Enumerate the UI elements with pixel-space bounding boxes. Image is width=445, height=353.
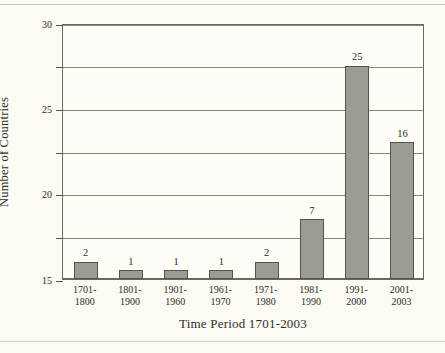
bar[interactable]	[164, 270, 188, 279]
bar[interactable]	[300, 219, 324, 279]
x-axis-tick-label-line: 1991-	[344, 284, 367, 296]
x-axis-title: Time Period 1701-2003	[179, 316, 307, 332]
bar-slot: 1	[108, 25, 153, 279]
bar-value-label: 16	[397, 129, 408, 140]
y-axis-tick: 25	[56, 67, 63, 68]
y-axis-title: Number of Countries	[0, 97, 12, 207]
y-axis-tick: 20	[56, 110, 63, 111]
x-axis-tick-label: 1801-1900	[118, 284, 141, 307]
y-axis-tick-label: 20	[42, 190, 52, 200]
y-axis-tick: 0	[56, 281, 63, 282]
x-axis-tick-label: 1981-1990	[299, 284, 322, 307]
x-axis-tick-label-line: 1701-	[73, 284, 96, 296]
y-axis-tick-label: 15	[42, 276, 52, 286]
bar-slot: 2	[244, 25, 289, 279]
bar-slot: 7	[289, 25, 334, 279]
x-axis-tick-label-line: 1900	[118, 296, 141, 308]
bar-value-label: 2	[83, 248, 88, 259]
x-axis-tick-label-line: 1961-	[209, 284, 232, 296]
x-axis-tick-label: 2001-2003	[390, 284, 413, 307]
bar-value-label: 7	[309, 206, 314, 217]
bar[interactable]	[74, 262, 98, 279]
plot-area: 051015202530 2111272516	[62, 24, 424, 280]
x-axis-tick-label-line: 1981-	[299, 284, 322, 296]
x-axis-tick-label-line: 1800	[73, 296, 96, 308]
x-axis-tick-label-line: 1971-	[254, 284, 277, 296]
bar-slot: 1	[199, 25, 244, 279]
bar-slot: 25	[335, 25, 380, 279]
x-axis-tick-label: 1701-1800	[73, 284, 96, 307]
bar-value-label: 2	[264, 248, 269, 259]
bar[interactable]	[255, 262, 279, 279]
y-axis-tick: 10	[56, 195, 63, 196]
bar-value-label: 1	[219, 257, 224, 268]
x-axis-tick-label: 1971-1980	[254, 284, 277, 307]
y-axis-tick-label: 25	[42, 105, 52, 115]
scan-rule-top	[0, 4, 445, 5]
bar-slot: 16	[380, 25, 425, 279]
x-axis-tick-label-line: 1901-	[163, 284, 186, 296]
bar-series: 2111272516	[63, 25, 423, 279]
y-axis-tick: 5	[56, 238, 63, 239]
x-axis-tick-label-line: 2003	[390, 296, 413, 308]
bar[interactable]	[345, 66, 369, 279]
y-axis-tick-label: 30	[42, 20, 52, 30]
y-axis-tick: 15	[56, 153, 63, 154]
x-axis-tick-label-line: 1970	[209, 296, 232, 308]
bar[interactable]	[390, 142, 414, 279]
x-axis-tick-label-line: 1801-	[118, 284, 141, 296]
x-axis-tick-label-line: 2000	[344, 296, 367, 308]
bar-value-label: 1	[174, 257, 179, 268]
chart-page: Number of Countries 051015202530 2111272…	[0, 0, 445, 353]
bar-value-label: 1	[128, 257, 133, 268]
x-axis-tick-label: 1991-2000	[344, 284, 367, 307]
x-axis-tick-label-line: 1980	[254, 296, 277, 308]
bar[interactable]	[119, 270, 143, 279]
bar-slot: 1	[154, 25, 199, 279]
x-axis-tick-label: 1961-1970	[209, 284, 232, 307]
bar-slot: 2	[63, 25, 108, 279]
x-axis-tick-label-line: 1990	[299, 296, 322, 308]
bar-value-label: 25	[352, 52, 363, 63]
y-axis-tick: 30	[56, 25, 63, 26]
scan-rule-bottom	[0, 341, 445, 342]
x-axis-tick-label-line: 2001-	[390, 284, 413, 296]
x-axis-tick-label-line: 1960	[163, 296, 186, 308]
bar[interactable]	[209, 270, 233, 279]
x-axis-tick-label: 1901-1960	[163, 284, 186, 307]
